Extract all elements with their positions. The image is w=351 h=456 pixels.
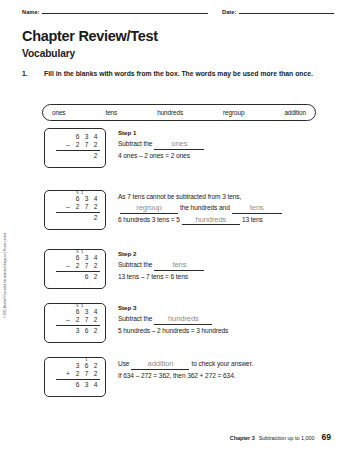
- equation-prefix: 6 hundreds 3 tens = 5: [118, 214, 180, 225]
- page-title: Chapter Review/Test: [22, 28, 158, 44]
- calc-operator: +: [66, 370, 73, 378]
- step-body-5: Use addition to check your answer. If 63…: [118, 357, 324, 381]
- calc-digit-value: 3: [85, 254, 89, 261]
- calc-operator: –: [66, 316, 73, 324]
- calc-digit-tens: 1 6: [82, 362, 91, 370]
- date-label: Date:: [222, 9, 237, 15]
- calc-digit-tens: 3: [82, 133, 91, 141]
- step-sentence: Subtract the tens: [118, 259, 324, 271]
- step-body-1: Step 1 Subtract the ones 4 ones – 2 ones…: [118, 128, 324, 161]
- calc-digit-tens: 6: [82, 273, 91, 281]
- date-field-group: Date:: [222, 9, 334, 15]
- calc-digit-hundreds: 5 6: [73, 308, 82, 316]
- word-bank: ones tens hundreds regroup addition: [42, 104, 316, 121]
- word-bank-item-hundreds[interactable]: hundreds: [157, 109, 183, 116]
- sentence-prefix: Subtract the: [118, 138, 152, 149]
- calc-digit-tens: 1 3: [82, 195, 91, 203]
- calc-row-addend-1: 3 1 6 2: [50, 362, 100, 370]
- calc-digit-tens: 7: [82, 316, 91, 324]
- calc-digit-ones: 2: [91, 141, 100, 149]
- calc-digit-tens: 1 3: [82, 254, 91, 262]
- step-row-3: 5 6 1 3 4 – 2 7 2: [44, 249, 324, 289]
- regroup-mark-tens: 1: [81, 304, 83, 308]
- step-statement: As 7 tens cannot be subtracted from 3 te…: [118, 191, 324, 202]
- step-equation: 5 hundreds – 2 hundreds = 3 hundreds: [118, 325, 324, 336]
- calc-row-sum: 6 3 4: [50, 381, 100, 389]
- calc-digit-value: 6: [76, 254, 80, 261]
- word-bank-item-regroup[interactable]: regroup: [223, 109, 244, 116]
- calc-digit-ones: 4: [91, 254, 100, 262]
- word-bank-item-ones[interactable]: ones: [52, 109, 65, 116]
- calc-digit-tens: 7: [82, 141, 91, 149]
- calc-row-result: 2: [50, 214, 100, 222]
- calc-digit-hundreds: 2: [73, 141, 82, 149]
- answer-blank-tens[interactable]: tens: [154, 261, 204, 271]
- step-sentence: regroup the hundreds and tens: [118, 202, 324, 214]
- calc-digit-hundreds: 2: [73, 262, 82, 270]
- answer-blank-hundreds[interactable]: hundreds: [182, 216, 240, 226]
- date-write-line[interactable]: [239, 12, 334, 14]
- calc-digit-tens: 7: [82, 370, 91, 378]
- calc-digit-tens: 7: [82, 203, 91, 211]
- calc-row-result: 2: [50, 152, 100, 160]
- calc-row-subtrahend: – 2 7 2: [50, 262, 100, 270]
- answer-blank-regroup[interactable]: regroup: [120, 204, 178, 214]
- calc-digit-ones: 2: [91, 152, 100, 160]
- page-number: 69: [321, 432, 331, 442]
- calc-digit-hundreds: 2: [73, 316, 82, 324]
- calc-digit-value: 3: [85, 195, 89, 202]
- word-bank-item-tens[interactable]: tens: [105, 109, 117, 116]
- calc-digit-tens: 7: [82, 262, 91, 270]
- step-row-2: 5 6 1 3 4 – 2 7 2: [44, 190, 324, 230]
- answer-blank-ones[interactable]: ones: [154, 140, 204, 150]
- regroup-mark-hundreds: 5: [76, 304, 78, 308]
- step-sentence: Use addition to check your answer.: [118, 358, 324, 370]
- calc-digit-ones: 4: [91, 133, 100, 141]
- answer-blank-addition[interactable]: addition: [131, 360, 189, 370]
- sentence-prefix: Use: [118, 358, 129, 369]
- calc-digit-tens: 3: [82, 381, 91, 389]
- step-row-4: 5 6 1 3 4 – 2 7 2: [44, 303, 324, 343]
- name-label: Name:: [22, 9, 40, 15]
- word-bank-item-addition[interactable]: addition: [284, 109, 306, 116]
- calc-digit-hundreds: 3: [73, 362, 82, 370]
- calc-row-addend-2: + 2 7 2: [50, 370, 100, 378]
- calc-operator: –: [66, 141, 73, 149]
- regroup-mark-hundreds: 5: [76, 250, 78, 254]
- step-sentence: Subtract the ones: [118, 138, 324, 150]
- calc-row-subtrahend: – 2 7 2: [50, 141, 100, 149]
- step-equation: 4 ones – 2 ones = 2 ones: [118, 150, 324, 161]
- calc-row-minuend: 5 6 1 3 4: [50, 308, 100, 316]
- answer-blank-hundreds[interactable]: hundreds: [154, 315, 212, 325]
- step-body-2: As 7 tens cannot be subtracted from 3 te…: [118, 190, 324, 225]
- carry-mark-tens: 1: [85, 358, 87, 362]
- calc-digit-ones: 2: [91, 214, 100, 222]
- calc-row-subtrahend: – 2 7 2: [50, 316, 100, 324]
- sentence-middle: the hundreds and: [180, 202, 230, 213]
- section-subtitle: Vocabulary: [22, 48, 75, 59]
- calc-digit-hundreds: 2: [73, 203, 82, 211]
- equation-suffix: 13 tens: [242, 214, 263, 225]
- calc-row-result: 6 2: [50, 273, 100, 281]
- footer-topic: Subtraction up to 1,000: [259, 435, 315, 441]
- step-equation: If 634 – 272 = 362, then 362 + 272 = 634…: [118, 370, 324, 381]
- calc-digit-value: 3: [85, 308, 89, 315]
- calculation-box-1: 6 3 4 – 2 7 2 2: [44, 128, 106, 168]
- calc-digit-ones: 2: [91, 262, 100, 270]
- calc-digit-ones: 2: [91, 327, 100, 335]
- calculation-box-2: 5 6 1 3 4 – 2 7 2: [44, 190, 106, 230]
- page-header: Name: Date:: [22, 9, 334, 15]
- calculation-box-5: 3 1 6 2 + 2 7 2 6 3: [44, 357, 106, 397]
- calc-digit-ones: 2: [91, 273, 100, 281]
- worksheet-page: Name: Date: Chapter Review/Test Vocabula…: [0, 0, 351, 456]
- sentence-prefix: Subtract the: [118, 313, 152, 324]
- step-label: Step 2: [118, 250, 324, 257]
- calc-digit-ones: 2: [91, 362, 100, 370]
- question-text: Fill in the blanks with words from the b…: [44, 69, 314, 80]
- regroup-mark-tens: 1: [81, 250, 83, 254]
- calc-digit-hundreds: 5 6: [73, 254, 82, 262]
- name-write-line[interactable]: [42, 12, 208, 14]
- answer-blank-tens[interactable]: tens: [232, 204, 282, 214]
- calc-digit-ones: 2: [91, 316, 100, 324]
- calculation-box-3: 5 6 1 3 4 – 2 7 2: [44, 249, 106, 289]
